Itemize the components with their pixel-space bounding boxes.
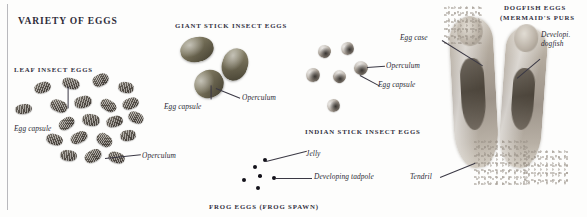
left-margin-rule xyxy=(7,4,8,210)
section-heading-dogfish-eggs-line2: (MERMAID'S PURS xyxy=(500,14,575,21)
section-heading-frog-eggs: FROG EGGS (FROG SPAWN) xyxy=(209,203,319,210)
page-title: VARIETY OF EGGS xyxy=(18,16,118,26)
section-heading-leaf-insect-eggs: LEAF INSECT EGGS xyxy=(14,66,93,73)
callout-leaf-egg-capsule: Egg capsule xyxy=(14,124,51,133)
leader-line-indian-operculum xyxy=(367,66,385,68)
callout-giant-operculum: Operculum xyxy=(242,93,276,102)
leader-line-leaf-egg-capsule xyxy=(68,86,69,108)
callout-leaf-operculum: Operculum xyxy=(142,151,176,160)
leader-line-indian-egg-capsule xyxy=(360,75,380,86)
callout-frog-jelly: Jelly xyxy=(306,149,320,158)
section-heading-dogfish-eggs-line1: DOGFISH EGGS xyxy=(504,4,566,11)
egg-variety-plate: VARIETY OF EGGS LEAF INSECT EGGS Egg cap… xyxy=(0,0,587,217)
callout-giant-egg-capsule: Egg capsule xyxy=(164,102,201,111)
leader-line-frog-jelly xyxy=(266,151,307,162)
leader-line-frog-tadpole xyxy=(276,178,312,179)
leader-line-giant-egg-capsule xyxy=(211,85,212,99)
callout-tendril: Tendril xyxy=(410,172,432,181)
callout-indian-egg-capsule: Egg capsule xyxy=(378,80,415,89)
callout-frog-developing-tadpole: Developing tadpole xyxy=(314,172,374,181)
callout-developing-dogfish: Developi. dogfish xyxy=(541,31,587,48)
callout-dogfish-egg-case: Egg case xyxy=(400,33,428,42)
callout-indian-operculum: Operculum xyxy=(386,61,420,70)
section-heading-giant-stick-insect-eggs: GIANT STICK INSECT EGGS xyxy=(175,22,287,29)
section-heading-indian-stick-insect-eggs: INDIAN STICK INSECT EGGS xyxy=(305,128,421,135)
